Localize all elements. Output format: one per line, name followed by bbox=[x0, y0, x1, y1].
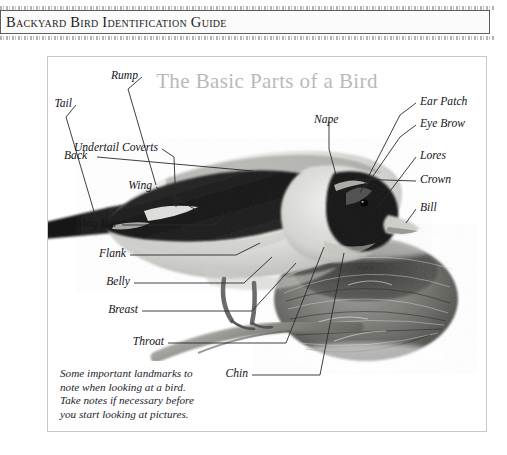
label-wing: Wing bbox=[48, 179, 152, 192]
label-ear-patch: Ear Patch bbox=[420, 95, 467, 108]
label-wing-bar: Wing Bar bbox=[48, 217, 118, 230]
label-belly: Belly bbox=[48, 275, 130, 288]
figure-frame: The Basic Parts of a Bird bbox=[47, 56, 487, 432]
figure-caption: Some important landmarks to note when lo… bbox=[60, 367, 194, 421]
label-eye-brow: Eye Brow bbox=[420, 117, 465, 130]
label-nape: Nape bbox=[314, 113, 338, 126]
label-crown: Crown bbox=[420, 173, 451, 186]
label-tail: Tail bbox=[48, 97, 72, 110]
label-rump: Rump bbox=[48, 69, 138, 82]
label-undertail-coverts: Undertail Coverts bbox=[48, 141, 158, 154]
label-flank: Flank bbox=[48, 247, 126, 260]
header-decorative-rule-bottom bbox=[0, 36, 494, 40]
running-header: Backyard Bird Identification Guide bbox=[0, 6, 496, 40]
label-bill: Bill bbox=[420, 201, 437, 214]
label-lores: Lores bbox=[420, 149, 446, 162]
label-breast: Breast bbox=[48, 303, 138, 316]
page-title: Backyard Bird Identification Guide bbox=[6, 14, 227, 31]
label-throat: Throat bbox=[48, 335, 164, 348]
